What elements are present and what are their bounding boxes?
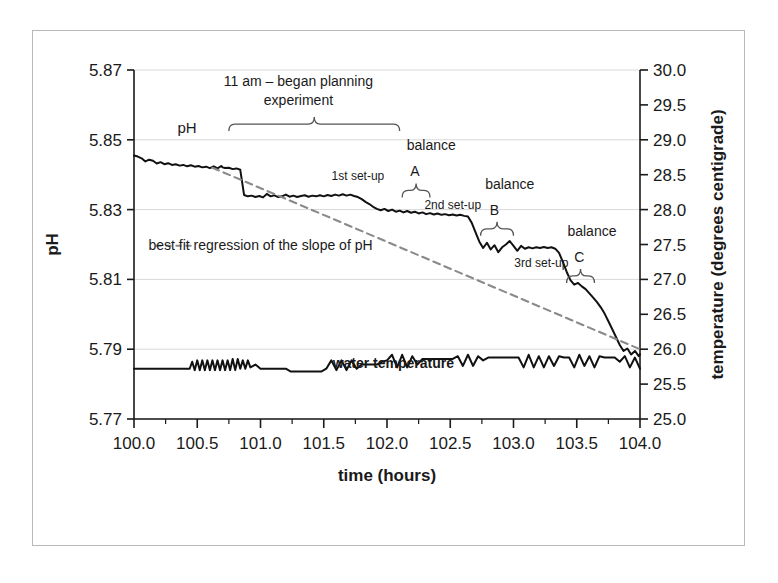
y-tick-label-5.83: 5.83 [89,201,122,220]
x-tick-label-100.0: 100.0 [113,434,156,453]
y2-tick-label-26.0: 26.0 [653,340,686,359]
y-tick-label-5.77: 5.77 [89,410,122,429]
brace-planning [229,117,400,131]
annotation-ph-label: pH [178,119,197,136]
x-tick-label-101.0: 101.0 [239,434,282,453]
x-tick-label-104.0: 104.0 [619,434,662,453]
y2-tick-label-26.5: 26.5 [653,305,686,324]
x-tick-label-102.0: 102.0 [366,434,409,453]
y-tick-label-5.85: 5.85 [89,131,122,150]
x-axis-title: time (hours) [338,466,436,485]
annotations-group: pH11 am – began planningexperiment1st se… [148,73,616,372]
y-axis-title: pH [43,233,62,256]
y2-tick-label-28.5: 28.5 [653,166,686,185]
annotation-second-setup: 2nd set-up [424,198,481,212]
annotation-balance-a-letter: A [410,163,420,179]
y-tick-label-5.81: 5.81 [89,270,122,289]
annotation-legend-text: best fit regression of the slope of pH [148,237,372,253]
x-tick-label-103.0: 103.0 [492,434,535,453]
y2-tick-label-30.0: 30.0 [653,61,686,80]
annotation-began-planning-line1: 11 am – began planning [224,73,373,89]
brace-balance-b [481,222,514,236]
y2-tick-label-25.0: 25.0 [653,410,686,429]
figure-container: 5.775.795.815.835.855.8725.025.526.026.5… [0,0,778,583]
x-tick-label-101.5: 101.5 [302,434,345,453]
y2-tick-label-29.0: 29.0 [653,131,686,150]
y2-tick-label-28.0: 28.0 [653,201,686,220]
annotation-balance-b-word: balance [485,176,534,192]
x-tick-label-103.5: 103.5 [555,434,598,453]
chart-canvas: 5.775.795.815.835.855.8725.025.526.026.5… [0,0,778,583]
y2-tick-label-25.5: 25.5 [653,375,686,394]
annotation-water-temperature-label: water temperature [332,355,455,371]
y2-axis-title: temperature (degrees centigrade) [708,109,727,379]
y-tick-label-5.87: 5.87 [89,61,122,80]
annotation-balance-c-letter: C [574,249,584,265]
x-tick-label-102.5: 102.5 [429,434,472,453]
annotation-first-setup: 1st set-up [332,169,385,183]
x-tick-label-100.5: 100.5 [176,434,219,453]
y-tick-label-5.79: 5.79 [89,340,122,359]
y2-tick-label-27.5: 27.5 [653,236,686,255]
annotation-balance-c-word: balance [567,223,616,239]
brace-balance-a [402,183,430,197]
annotation-third-setup: 3rd set-up [514,256,568,270]
annotation-began-planning-line2: experiment [264,92,333,108]
annotation-balance-a-word: balance [407,137,456,153]
y2-tick-label-29.5: 29.5 [653,96,686,115]
annotation-balance-b-letter: B [490,202,499,218]
axis-titles-group: time (hours)pHtemperature (degrees centi… [43,109,727,485]
y2-tick-label-27.0: 27.0 [653,270,686,289]
